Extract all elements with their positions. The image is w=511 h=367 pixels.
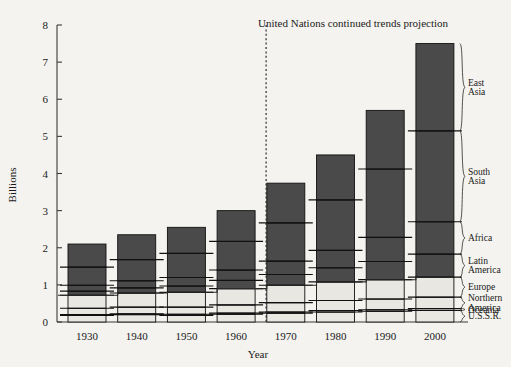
bar-segment <box>267 285 305 302</box>
bar-segment <box>118 281 156 288</box>
bar-segment <box>217 289 255 305</box>
bar-segment <box>267 313 305 322</box>
bar-segment <box>118 315 156 322</box>
bar-segment <box>167 307 205 314</box>
region-label-east-asia: Asia <box>468 87 486 97</box>
bar-segment <box>317 155 355 200</box>
y-tick-label: 1 <box>43 279 49 291</box>
x-tick-label: 1970 <box>275 330 298 342</box>
bar-segment <box>68 267 106 285</box>
x-tick-label: 1960 <box>225 330 248 342</box>
bar-segment <box>317 268 355 282</box>
bar-segment <box>366 280 404 299</box>
bar-segment <box>416 131 454 222</box>
chart-svg: United Nations continued trends projecti… <box>0 0 511 367</box>
y-axis-title: Billions <box>6 168 18 203</box>
region-bracket <box>460 131 465 222</box>
region-label-latin-america: America <box>468 265 501 275</box>
region-label-africa: Africa <box>468 233 493 243</box>
bar-segment <box>366 299 404 310</box>
region-bracket <box>460 297 465 309</box>
bar-segment <box>68 285 106 291</box>
bar-segment <box>317 250 355 267</box>
population-projection-chart: United Nations continued trends projecti… <box>0 0 511 367</box>
bar-segment <box>267 183 305 223</box>
bar-segment <box>267 274 305 285</box>
x-axis: 19301940195019601970198019902000 <box>57 322 468 342</box>
bar-segment <box>68 308 106 314</box>
bar-segment <box>267 223 305 261</box>
bar-segment <box>118 288 156 293</box>
region-label-south-asia: Asia <box>468 176 486 186</box>
bar-segment <box>68 291 106 295</box>
region-bracket <box>460 44 465 131</box>
bar-segment <box>317 300 355 310</box>
bar-segment <box>416 277 454 297</box>
bar-segment <box>416 222 454 254</box>
bar-segment <box>366 110 404 169</box>
region-bracket <box>460 222 465 254</box>
bar-segment <box>366 237 404 261</box>
y-tick-label: 4 <box>43 168 49 180</box>
x-tick-label: 1950 <box>175 330 198 342</box>
y-tick-label: 0 <box>43 316 49 328</box>
chart-title: United Nations continued trends projecti… <box>258 17 449 29</box>
bar-segment <box>217 314 255 322</box>
bar-segment <box>416 254 454 277</box>
region-label-ussr: U.S.S.R. <box>468 311 501 321</box>
bar-segment <box>118 260 156 281</box>
x-tick-label: 1980 <box>325 330 348 342</box>
bar-segment <box>167 292 205 307</box>
region-bracket <box>460 277 465 297</box>
bars-layer <box>60 44 462 322</box>
bar-segment <box>366 261 404 279</box>
bar-segment <box>366 311 404 322</box>
bar-segment <box>167 277 205 286</box>
bar-segment <box>217 270 255 280</box>
region-bracket <box>460 310 465 322</box>
bar-segment <box>317 312 355 322</box>
bar-segment <box>267 261 305 274</box>
x-tick-label: 2000 <box>424 330 447 342</box>
bar-segment <box>118 235 156 260</box>
bar-segment <box>68 315 106 322</box>
y-tick-label: 3 <box>43 205 49 217</box>
bar-segment <box>167 286 205 292</box>
bar-segment <box>167 227 205 253</box>
bar-segment <box>416 297 454 309</box>
y-tick-label: 6 <box>43 93 49 105</box>
bar-segment <box>167 253 205 277</box>
bar-segment <box>366 169 404 237</box>
x-tick-label: 1990 <box>374 330 397 342</box>
x-tick-label: 1940 <box>126 330 149 342</box>
bar-segment <box>167 315 205 322</box>
y-tick-label: 7 <box>43 56 49 68</box>
bar-segment <box>317 200 355 250</box>
region-bracket <box>460 254 465 277</box>
bar-segment <box>68 244 106 267</box>
bar-segment <box>217 241 255 270</box>
region-label-europe: Europe <box>468 282 495 292</box>
x-tick-label: 1930 <box>76 330 99 342</box>
bar-segment <box>68 295 106 308</box>
bar-segment <box>416 44 454 131</box>
bar-segment <box>118 293 156 307</box>
bar-segment <box>416 310 454 322</box>
y-tick-label: 2 <box>43 242 49 254</box>
x-axis-title: Year <box>248 348 269 360</box>
bar-segment <box>217 211 255 242</box>
region-bracket <box>460 309 465 311</box>
bar-segment <box>217 305 255 313</box>
region-bracket-labels: EastAsiaSouthAsiaAfricaLatinAmericaEurop… <box>460 44 503 322</box>
y-tick-label: 8 <box>43 19 49 31</box>
y-axis: 012345678 <box>43 19 63 328</box>
bar-segment <box>317 282 355 301</box>
bar-segment <box>217 280 255 288</box>
y-tick-label: 5 <box>43 130 49 142</box>
bar-segment <box>118 307 156 314</box>
bar-segment <box>267 303 305 312</box>
